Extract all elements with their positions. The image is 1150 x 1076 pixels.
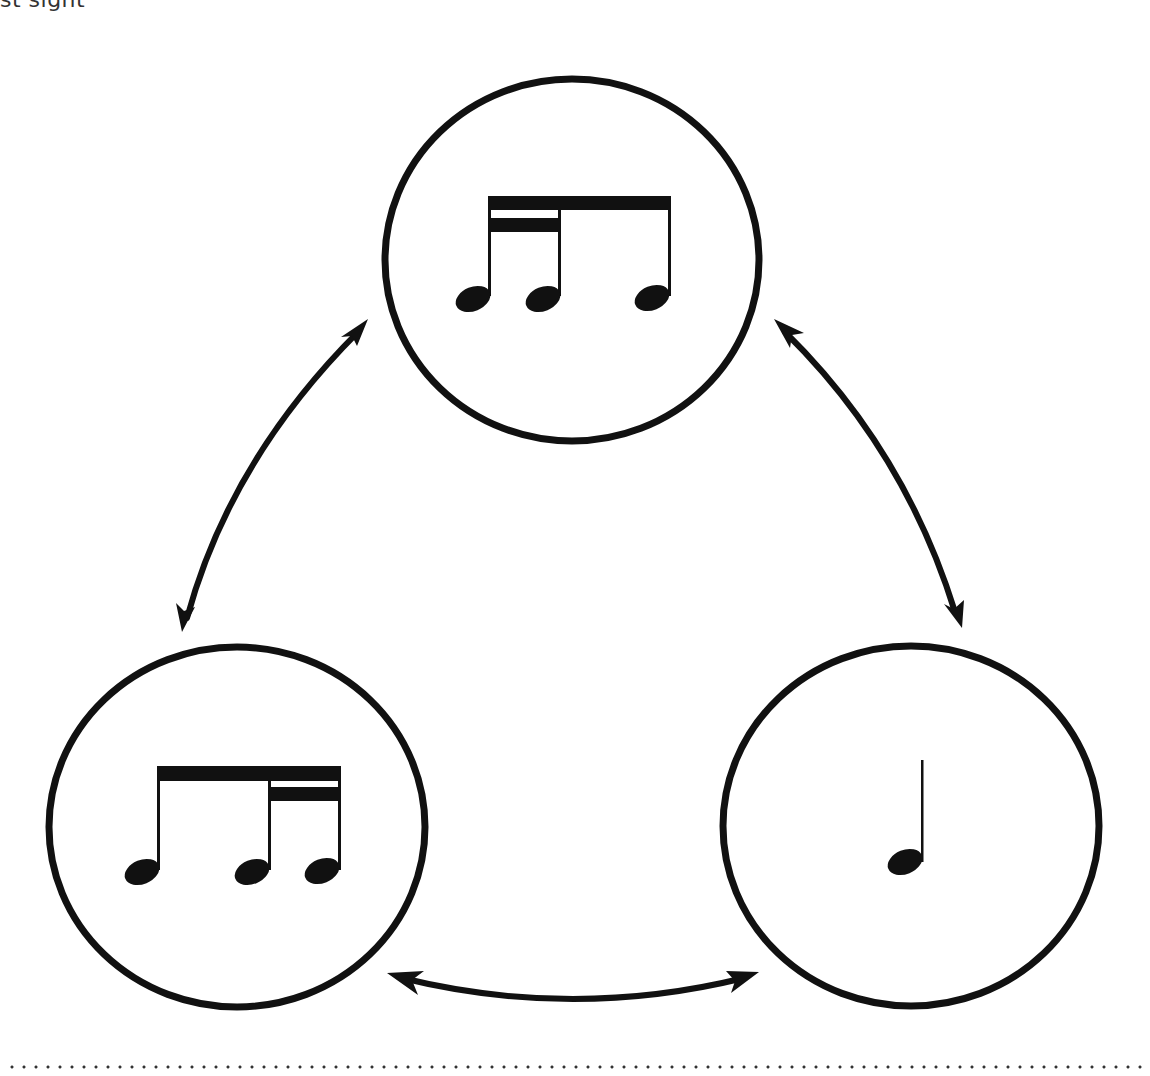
node-bottom-right bbox=[723, 646, 1099, 1006]
arrow-bottom-left-to-bottom-right bbox=[387, 971, 759, 999]
node-top bbox=[385, 79, 759, 441]
rhythm-eighth-sixteenth-sixteenth-icon bbox=[121, 766, 343, 890]
circle-top bbox=[385, 79, 759, 441]
node-bottom-left bbox=[49, 647, 425, 1007]
arrow-top-to-bottom-right bbox=[774, 319, 964, 628]
arrow-top-to-bottom-left bbox=[176, 319, 368, 632]
circle-bottom-left bbox=[49, 647, 425, 1007]
rhythm-cycle-diagram bbox=[0, 0, 1150, 1076]
quarter-note-icon bbox=[884, 760, 926, 880]
rhythm-sixteenth-sixteenth-eighth-icon bbox=[452, 196, 673, 317]
dotted-divider bbox=[6, 1065, 1150, 1069]
circle-bottom-right bbox=[723, 646, 1099, 1006]
